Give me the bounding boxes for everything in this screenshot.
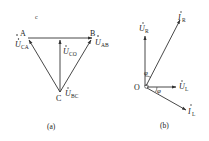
- label-i-r: I R: [177, 11, 186, 23]
- corner-label-c: c: [35, 14, 38, 20]
- vertex-label-c: C: [56, 94, 61, 103]
- vertex-label-b: B: [90, 29, 95, 38]
- caption-b: (b): [160, 121, 169, 130]
- svg-text:L: L: [185, 86, 189, 92]
- label-i-l: I L: [187, 104, 196, 117]
- dot-a: [16, 34, 18, 36]
- angle-label-lower: φ: [157, 87, 161, 95]
- phasor-c-to-a: [29, 40, 60, 92]
- phasor-i-l: [147, 88, 186, 110]
- vertex-label-a: A: [20, 29, 26, 38]
- label-u-r: U R: [139, 22, 149, 34]
- label-u-l: U L: [179, 80, 189, 92]
- phasor-i-r: [146, 20, 180, 86]
- svg-text:BC: BC: [71, 93, 79, 99]
- svg-text:CO: CO: [69, 51, 77, 57]
- label-u-ca: U CA: [15, 38, 29, 50]
- origin-label-o: O: [134, 83, 140, 92]
- svg-text:R: R: [182, 17, 186, 23]
- svg-text:I: I: [187, 107, 191, 116]
- label-u-ab: U AB: [95, 38, 109, 48]
- svg-text:R: R: [145, 28, 149, 34]
- figure-b: φ φ O U R I R U L I L (b): [134, 11, 196, 130]
- svg-text:AB: AB: [101, 42, 109, 48]
- svg-text:I: I: [177, 13, 181, 22]
- svg-text:L: L: [192, 111, 196, 117]
- svg-text:CA: CA: [21, 44, 29, 50]
- phasor-diagrams: c A U CA B U AB U CO C U BC: [0, 0, 209, 141]
- dot-b: [97, 35, 99, 37]
- label-u-co: U CO: [63, 45, 77, 57]
- label-u-bc: U BC: [65, 87, 79, 99]
- figure-a: c A U CA B U AB U CO C U BC: [15, 14, 109, 131]
- caption-a: (a): [47, 122, 56, 131]
- angle-label-upper: φ: [144, 69, 148, 77]
